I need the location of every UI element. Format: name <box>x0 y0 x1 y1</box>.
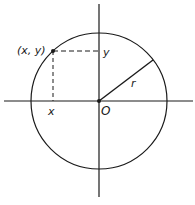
point-marker <box>51 49 55 53</box>
point-label: (x, y) <box>17 44 46 57</box>
origin-marker <box>97 99 101 103</box>
radius-line <box>99 60 153 101</box>
origin-label: O <box>101 104 110 118</box>
y-label: y <box>102 46 110 59</box>
radius-label: r <box>131 77 137 90</box>
unit-circle-diagram: (x, y) y x O r <box>0 0 195 205</box>
x-label: x <box>47 105 55 118</box>
